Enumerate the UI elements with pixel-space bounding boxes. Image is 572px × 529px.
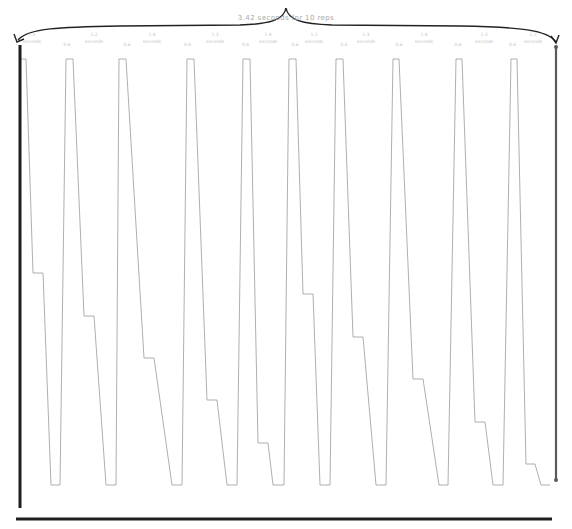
- rep-duration-unit: seconds: [23, 39, 42, 44]
- rep-gap-value: 0.6: [242, 42, 249, 47]
- rep-gap-value: 0.6: [395, 42, 402, 47]
- rep-duration-unit: seconds: [524, 39, 543, 44]
- rep-duration-unit: seconds: [305, 39, 324, 44]
- total-duration-label: 3.42 seconds for 10 reps: [238, 14, 334, 22]
- rep-duration-value: 1.3: [362, 32, 369, 37]
- rep-gap-value: 0.6: [454, 42, 461, 47]
- rep-duration-unit: seconds: [206, 39, 225, 44]
- rep-duration-value: 1.4: [264, 32, 271, 37]
- rep-duration-value: 1.3: [211, 32, 218, 37]
- rep-gap-value: 0.6: [509, 42, 516, 47]
- rep-gap-value: 0.6: [123, 42, 130, 47]
- rep-duration-unit: seconds: [475, 39, 494, 44]
- duration-brace: 3.42 seconds for 10 reps: [14, 8, 559, 43]
- rep-gap-value: 0.6: [184, 42, 191, 47]
- right-axis-bottom-dot: [554, 478, 558, 482]
- rep-duration-unit: seconds: [357, 39, 376, 44]
- rep-gap-value: 0.6: [291, 42, 298, 47]
- rep-duration-value: 1.2: [310, 32, 317, 37]
- rep-duration-value: 1.4: [420, 32, 427, 37]
- rep-duration-unit: seconds: [415, 39, 434, 44]
- rep-timing-diagram: 3.42 seconds for 10 reps 1.1seconds1.2se…: [0, 0, 572, 529]
- rep-gap-value: 0.6: [63, 42, 70, 47]
- rep-duration-unit: seconds: [143, 39, 162, 44]
- rep-duration-value: 1.4: [148, 32, 155, 37]
- rep-duration-unit: seconds: [85, 39, 104, 44]
- rep-duration-unit: seconds: [259, 39, 278, 44]
- rep-duration-value: 1.3: [480, 32, 487, 37]
- rep-gap-value: 0.6: [340, 42, 347, 47]
- right-axis-top-dot: [554, 45, 558, 49]
- rep-duration-value: 1.1: [28, 32, 35, 37]
- rep-duration-value: 1.2: [529, 32, 536, 37]
- rep-duration-value: 1.2: [90, 32, 97, 37]
- rep-waveform: [20, 59, 550, 485]
- rep-labels: 1.1seconds1.2seconds0.61.4seconds0.61.3s…: [23, 32, 543, 47]
- arrow-right-icon: [551, 35, 559, 43]
